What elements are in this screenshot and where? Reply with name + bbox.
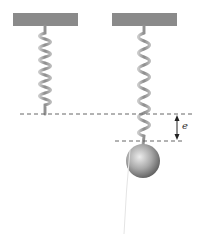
extension-label: e — [182, 120, 188, 131]
right-spring-icon — [139, 26, 150, 145]
left-spring-system — [13, 13, 78, 114]
hanging-ball — [126, 144, 160, 178]
extension-double-arrow-icon — [175, 115, 180, 140]
right-ceiling-plate — [112, 13, 177, 26]
left-ceiling-plate — [13, 13, 78, 26]
spring-diagram — [0, 0, 204, 234]
right-spring-system — [112, 13, 177, 234]
left-spring-icon — [40, 26, 51, 114]
